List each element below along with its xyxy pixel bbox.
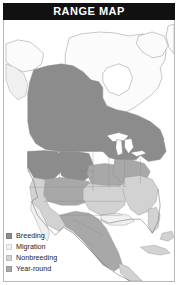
legend-label-year-round: Year-round [16, 264, 51, 273]
legend-item-breeding: Breeding [6, 231, 98, 240]
legend-item-migration: Migration [6, 242, 98, 251]
nonbreeding-swatch [6, 255, 12, 261]
breeding-northern-rockies [58, 151, 93, 181]
map-legend: Breeding Migration Nonbreeding Year-roun… [6, 231, 98, 273]
page-title: RANGE MAP [53, 6, 125, 17]
legend-label-migration: Migration [16, 242, 46, 251]
legend-label-nonbreeding: Nonbreeding [16, 253, 57, 262]
legend-item-year-round: Year-round [6, 264, 98, 273]
legend-label-breeding: Breeding [16, 231, 45, 240]
migration-swatch [6, 244, 12, 250]
breeding-swatch [6, 233, 12, 239]
legend-item-nonbreeding: Nonbreeding [6, 253, 98, 262]
year-round-swatch [6, 266, 12, 272]
range-map-figure: RANGE MAP [0, 0, 180, 285]
header-bar: RANGE MAP [3, 3, 175, 20]
